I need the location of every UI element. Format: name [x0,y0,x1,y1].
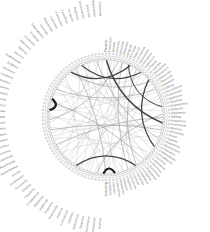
network-node-marker[interactable] [47,119,50,122]
network-node-marker[interactable] [141,70,144,73]
network-node-marker[interactable] [47,125,50,128]
node-label[interactable]: Rhegium [0,115,5,119]
network-node-marker[interactable] [71,68,74,71]
node-label[interactable]: Nepesinus [104,182,108,197]
network-node-marker[interactable] [130,168,133,171]
network-node-marker[interactable] [101,174,104,177]
network-node-marker[interactable] [118,59,121,62]
node-label[interactable]: Barensis [0,90,8,97]
network-node-marker[interactable] [48,129,51,132]
network-node-marker[interactable] [143,72,146,75]
network-node-marker[interactable] [136,67,139,70]
network-node-marker[interactable] [161,129,164,132]
network-node-marker[interactable] [68,161,71,164]
network-node-marker[interactable] [56,85,59,88]
network-node-marker[interactable] [61,154,64,157]
network-node-marker[interactable] [47,116,50,119]
network-node-marker[interactable] [148,154,151,157]
network-node-marker[interactable] [92,172,95,175]
network-edge[interactable] [61,143,152,153]
network-node-marker[interactable] [154,85,157,88]
network-node-marker[interactable] [82,62,85,65]
network-node-marker[interactable] [138,68,141,71]
network-node-marker[interactable] [79,168,82,171]
network-node-marker[interactable] [146,75,149,78]
network-node-marker[interactable] [138,163,141,166]
network-node-marker[interactable] [155,144,158,147]
network-node-marker[interactable] [162,109,165,112]
network-node-marker[interactable] [124,61,127,64]
network-node-marker[interactable] [85,170,88,173]
node-label[interactable]: Brundisinus [0,95,7,102]
network-node-marker[interactable] [158,138,161,141]
network-node-marker[interactable] [152,149,155,152]
network-node-marker[interactable] [160,132,163,135]
network-node-marker[interactable] [130,63,133,66]
network-node-marker[interactable] [114,173,117,176]
network-node-marker[interactable] [155,88,158,91]
network-node-marker[interactable] [105,58,108,61]
network-node-marker[interactable] [71,163,74,166]
network-node-marker[interactable] [163,119,166,122]
network-node-marker[interactable] [79,63,82,66]
network-node-marker[interactable] [111,58,114,61]
network-node-marker[interactable] [141,161,144,164]
network-node-marker[interactable] [74,67,77,70]
network-node-marker[interactable] [163,116,166,119]
network-node-marker[interactable] [133,65,136,68]
network-node-marker[interactable] [50,135,53,138]
network-node-marker[interactable] [59,152,62,155]
network-node-marker[interactable] [61,77,64,80]
network-node-marker[interactable] [101,58,104,61]
network-node-marker[interactable] [157,141,160,144]
network-node-marker[interactable] [54,88,57,91]
node-label[interactable]: Tauromenium [0,120,6,125]
network-node-marker[interactable] [56,147,59,150]
network-node-marker[interactable] [124,170,127,173]
network-node-marker[interactable] [162,122,165,125]
network-node-marker[interactable] [150,152,153,155]
network-node-marker[interactable] [133,166,136,169]
network-node-marker[interactable] [54,144,57,147]
network-node-marker[interactable] [64,75,67,78]
network-node-marker[interactable] [64,157,67,160]
network-node-marker[interactable] [98,58,101,61]
network-node-marker[interactable] [162,125,165,128]
network-node-marker[interactable] [150,79,153,82]
network-node-marker[interactable] [98,173,101,176]
network-node-marker[interactable] [118,172,121,175]
network-node-marker[interactable] [146,157,149,160]
network-node-marker[interactable] [52,90,55,93]
network-node-marker[interactable] [108,174,111,177]
network-node-marker[interactable] [105,174,108,177]
node-label[interactable]: Sutrinus [98,217,103,229]
network-node-marker[interactable] [162,106,165,109]
network-node-marker[interactable] [136,165,139,168]
network-node-marker[interactable] [92,59,95,62]
network-node-marker[interactable] [51,93,54,96]
network-node-marker[interactable] [160,100,163,103]
network-node-marker[interactable] [77,65,80,68]
network-node-marker[interactable] [163,112,166,115]
network-node-marker[interactable] [85,61,88,64]
network-node-marker[interactable] [159,135,162,138]
network-node-marker[interactable] [77,166,80,169]
network-node-marker[interactable] [74,165,77,168]
network-node-marker[interactable] [68,70,71,73]
network-node-marker[interactable] [158,93,161,96]
network-node-marker[interactable] [66,72,69,75]
network-node-marker[interactable] [48,103,51,106]
network-node-marker[interactable] [161,103,164,106]
network-node-marker[interactable] [95,173,98,176]
network-node-marker[interactable] [49,132,52,135]
network-node-marker[interactable] [111,173,114,176]
node-label[interactable]: Viterbiensis [91,217,97,232]
network-node-marker[interactable] [49,100,52,103]
network-node-marker[interactable] [57,149,60,152]
network-node-marker[interactable] [114,58,117,61]
node-label[interactable]: Cornetanus [84,216,91,232]
network-diagram-svg[interactable]: PrecariisFranciscusVenetiisFlorentiaBono… [0,0,210,232]
network-node-marker[interactable] [159,96,162,99]
network-node-marker[interactable] [127,62,130,65]
node-label[interactable]: Crotoniata [0,108,6,113]
